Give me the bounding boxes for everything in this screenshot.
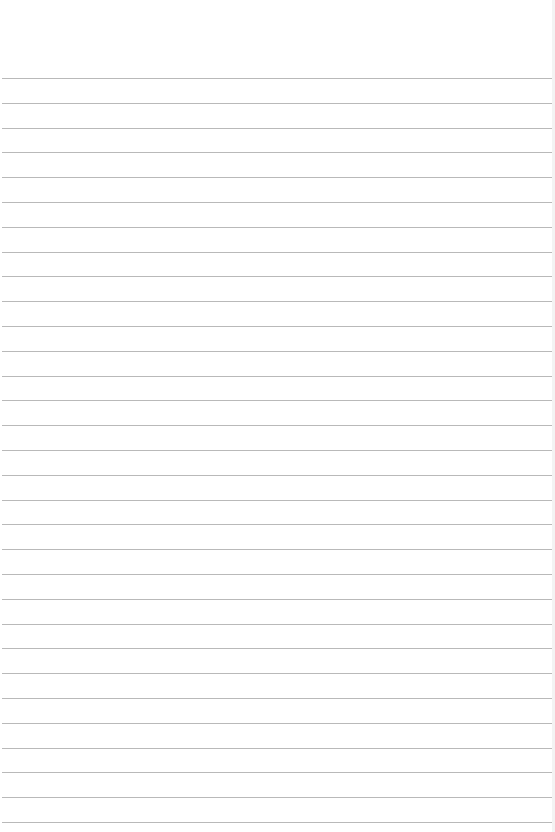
ruled-line <box>2 599 552 600</box>
ruled-line <box>2 103 552 104</box>
ruled-line <box>2 227 552 228</box>
ruled-line <box>2 475 552 476</box>
ruled-line <box>2 400 552 401</box>
ruled-line <box>2 177 552 178</box>
ruled-line <box>2 128 552 129</box>
ruled-line <box>2 450 552 451</box>
ruled-line <box>2 524 552 525</box>
ruled-line <box>2 748 552 749</box>
ruled-line <box>2 772 552 773</box>
ruled-line <box>2 202 552 203</box>
ruled-line <box>2 500 552 501</box>
ruled-line <box>2 574 552 575</box>
ruled-line <box>2 549 552 550</box>
ruled-line <box>2 326 552 327</box>
ruled-line <box>2 648 552 649</box>
ruled-line <box>2 152 552 153</box>
ruled-line <box>2 624 552 625</box>
ruled-line <box>2 276 552 277</box>
ruled-line <box>2 797 552 798</box>
ruled-line <box>2 822 552 823</box>
ruled-line <box>2 723 552 724</box>
ruled-line <box>2 78 552 79</box>
ruled-line <box>2 425 552 426</box>
ruled-line <box>2 301 552 302</box>
ruled-line <box>2 698 552 699</box>
ruled-paper-sheet <box>0 0 555 832</box>
ruled-line <box>2 351 552 352</box>
ruled-line <box>2 376 552 377</box>
ruled-line <box>2 252 552 253</box>
ruled-line <box>2 673 552 674</box>
